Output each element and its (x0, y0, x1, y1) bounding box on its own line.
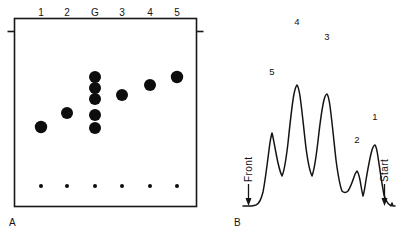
panel-b: 5 4 3 2 1 Front Start B (234, 16, 395, 228)
lane-label-g: G (91, 7, 99, 18)
origin-spot-lane4 (148, 184, 152, 188)
panel-a: 1 2 G 3 4 5 A (8, 7, 204, 228)
origin-spot-laneg (93, 184, 97, 188)
lane-label-1: 1 (38, 7, 44, 18)
front-label: Front (243, 157, 254, 182)
lane-label-4: 4 (147, 7, 153, 18)
peak-label-5: 5 (269, 66, 274, 77)
densitometer-trace (243, 85, 395, 206)
spot-laneg-1 (89, 122, 101, 134)
spot-laneg-5 (89, 71, 101, 83)
origin-spot-lane1 (39, 184, 43, 188)
peak-label-1: 1 (372, 111, 377, 122)
figure-container: 1 2 G 3 4 5 A (0, 0, 404, 240)
lane-label-2: 2 (64, 7, 70, 18)
spot-lane1 (35, 121, 47, 133)
peak-label-2: 2 (354, 134, 359, 145)
spot-lane5 (171, 71, 183, 83)
spot-lane3 (116, 89, 128, 101)
origin-spot-lane5 (175, 184, 179, 188)
panel-label-a: A (9, 217, 16, 228)
peak-label-4: 4 (294, 16, 299, 27)
spot-lane4 (144, 79, 156, 91)
peak-label-3: 3 (324, 31, 329, 42)
start-label: Start (379, 159, 390, 182)
origin-spot-lane3 (120, 184, 124, 188)
panel-label-b: B (234, 217, 241, 228)
spot-laneg-3 (89, 93, 101, 105)
origin-spot-lane2 (65, 184, 69, 188)
front-arrow-icon (246, 198, 252, 206)
spot-lane2 (61, 107, 73, 119)
lane-label-5: 5 (174, 7, 180, 18)
spot-laneg-2 (89, 109, 101, 121)
plate-border (15, 19, 197, 207)
figure-svg: 1 2 G 3 4 5 A (0, 0, 404, 240)
lane-label-3: 3 (119, 7, 125, 18)
spot-laneg-4 (89, 82, 101, 94)
